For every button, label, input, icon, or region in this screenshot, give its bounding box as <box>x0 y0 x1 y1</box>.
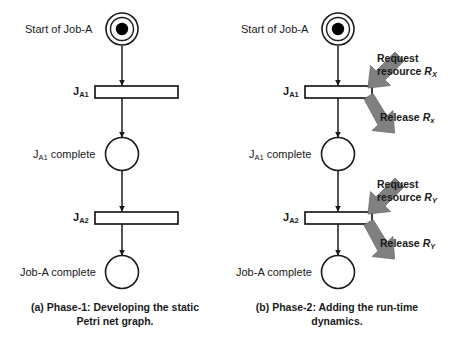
transition-ja2-a <box>95 212 178 224</box>
label-transition-ja2-right: JA2 <box>283 211 299 224</box>
place-joba-complete-b <box>322 256 355 289</box>
petri-net-figure: Start of Job-A JA1 JA1 complete JA2 Job-… <box>0 0 456 342</box>
label-place-ja1-complete-left: JA1 complete <box>33 148 95 161</box>
transition-ja2-b <box>305 212 372 224</box>
annotation-line-1: Request <box>377 178 437 191</box>
annotation-resource-subscript: X <box>432 70 437 79</box>
annotation-line-2: resource RY <box>377 191 437 204</box>
annotation-line-1: Release Rx <box>380 111 434 124</box>
caption-line-1: (b) Phase-2: Adding the run-time <box>228 300 446 314</box>
annotation-resource-subscript: Y <box>432 196 437 205</box>
label-start-of-job-a-right: Start of Job-A <box>241 23 308 36</box>
annotation-request-ry: Request resource RY <box>377 178 437 204</box>
label-subscript: A1 <box>255 153 264 162</box>
place-joba-complete-a <box>106 256 139 289</box>
label-subscript: A1 <box>79 90 89 99</box>
label-subscript: A2 <box>79 216 89 225</box>
label-transition-ja1-right: JA1 <box>283 85 299 98</box>
label-text: Job-A complete <box>20 266 96 278</box>
annotation-request-rx: Request resource RX <box>377 52 437 78</box>
transition-ja1-b <box>305 86 372 98</box>
label-tail: complete <box>264 148 312 160</box>
panel-a-graph <box>95 13 178 289</box>
label-place-ja1-complete-right: JA1 complete <box>249 148 311 161</box>
label-text: J <box>249 148 255 160</box>
annotation-resource: R <box>424 191 432 203</box>
caption-line-2: Petri net graph. <box>10 314 220 328</box>
label-subscript: A2 <box>289 216 299 225</box>
annotation-text: resource <box>377 65 424 77</box>
annotation-line-1: Request <box>377 52 437 65</box>
token-start-a <box>116 23 128 35</box>
transition-ja1-a <box>95 86 178 98</box>
label-text: J <box>33 148 39 160</box>
annotation-line-2: resource RX <box>377 65 437 78</box>
label-transition-ja2-left: JA2 <box>73 211 89 224</box>
annotation-resource-subscript: x <box>430 116 434 125</box>
annotation-release-rx: Release Rx <box>380 111 434 124</box>
label-subscript: A1 <box>289 90 299 99</box>
token-start-b <box>332 23 344 35</box>
label-place-joba-complete-right: Job-A complete <box>236 266 312 279</box>
label-tail: complete <box>48 148 96 160</box>
place-start-a <box>106 13 138 45</box>
caption-panel-a: (a) Phase-1: Developing the static Petri… <box>10 300 220 328</box>
label-transition-ja1-left: JA1 <box>73 85 89 98</box>
label-text: Start of Job-A <box>241 23 308 35</box>
annotation-text: Release <box>380 111 423 123</box>
place-ja1-complete-b <box>322 138 355 171</box>
label-subscript: A1 <box>39 153 48 162</box>
label-text: Job-A complete <box>236 266 312 278</box>
caption-panel-b: (b) Phase-2: Adding the run-time dynamic… <box>228 300 446 328</box>
annotation-resource: R <box>424 65 432 77</box>
annotation-text: resource <box>377 191 424 203</box>
caption-line-2: dynamics. <box>228 314 446 328</box>
annotation-line-1: Release RY <box>380 237 435 250</box>
label-text: Start of Job-A <box>25 23 92 35</box>
label-place-joba-complete-left: Job-A complete <box>20 266 96 279</box>
annotation-text: Release <box>380 237 423 249</box>
label-start-of-job-a-left: Start of Job-A <box>25 23 92 36</box>
caption-line-1: (a) Phase-1: Developing the static <box>10 300 220 314</box>
place-ja1-complete-a <box>106 138 139 171</box>
annotation-release-ry: Release RY <box>380 237 435 250</box>
annotation-resource-subscript: Y <box>430 242 435 251</box>
place-start-b <box>322 13 354 45</box>
